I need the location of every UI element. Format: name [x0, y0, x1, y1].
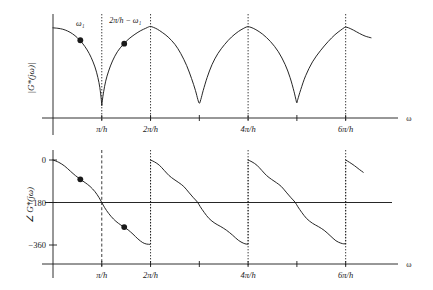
magnitude-x-axis-label: ω [406, 114, 411, 123]
phase-curve-branch-4-to-6 [248, 160, 345, 244]
phase-y-axis-label: ∠ G*(jω) [25, 187, 35, 223]
phase-x-axis-label: ω [406, 260, 411, 269]
magnitude-annotation-0: ω₁ [76, 19, 85, 28]
omega1-point [77, 37, 83, 43]
magnitude-annotation-1: 2π/h − ω₁ [109, 16, 141, 25]
frequency-response-figure: ωπ/h2π/h4π/h6π/h|G*(jω)|ω₁2π/h − ω₁ωπ/h2… [0, 0, 433, 290]
phase-ytick-label-2: −360 [28, 240, 46, 250]
plot-canvas: ωπ/h2π/h4π/h6π/h|G*(jω)|ω₁2π/h − ω₁ωπ/h2… [0, 0, 433, 290]
magnitude-xtick-label-2: 4π/h [241, 124, 256, 134]
phase-xtick-label-3: 6π/h [338, 270, 353, 280]
magnitude-xtick-label-3: 6π/h [338, 124, 353, 134]
phase-ytick-label-0: 0 [42, 155, 46, 165]
phase-curve-branch-6-end [346, 160, 364, 172]
magnitude-y-axis-label: |G*(jω)| [26, 63, 36, 94]
omega1-phase-point [77, 176, 83, 182]
mirror-point [121, 41, 127, 47]
phase-xtick-label-0: π/h [96, 270, 107, 280]
mirror-phase-point [121, 224, 127, 230]
magnitude-curve [53, 26, 371, 105]
magnitude-xtick-label-1: 2π/h [143, 124, 158, 134]
magnitude-xtick-label-0: π/h [96, 124, 107, 134]
phase-xtick-label-2: 4π/h [241, 270, 256, 280]
phase-xtick-label-1: 2π/h [143, 270, 158, 280]
